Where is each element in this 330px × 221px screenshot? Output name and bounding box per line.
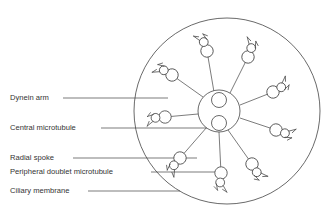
dynein-arm-outer bbox=[222, 186, 227, 192]
leader-lines-group bbox=[63, 98, 221, 191]
dynein-arm-outer bbox=[261, 171, 268, 178]
cilium-cross-section-figure: Dynein armCentral microtubuleRadial spok… bbox=[0, 0, 330, 221]
peripheral-doublet-d2 bbox=[239, 37, 260, 65]
dynein-arm-outer bbox=[280, 76, 287, 83]
label-dynein-arm: Dynein arm bbox=[10, 93, 49, 102]
peripheral-doublet-d5 bbox=[244, 155, 268, 183]
peripheral-doublet-d8 bbox=[146, 110, 172, 126]
peripheral-doublet-d3 bbox=[264, 76, 292, 100]
dynein-arm-outer bbox=[170, 170, 177, 177]
diagram-canvas: Dynein armCentral microtubuleRadial spok… bbox=[0, 0, 330, 221]
central-microtubule-2 bbox=[212, 116, 227, 131]
dynein-arm-outer bbox=[194, 35, 200, 42]
label-radial-spoke: Radial spoke bbox=[10, 153, 54, 162]
peripheral-doublet-d1 bbox=[194, 31, 215, 59]
peripheral-doublet-d6 bbox=[213, 166, 229, 192]
peripheral-doublet-d4 bbox=[268, 121, 296, 142]
dynein-arm-outer bbox=[152, 68, 159, 75]
peripheral-doublet-d9 bbox=[152, 60, 180, 84]
label-peripheral-doublet-microtubule: Peripheral doublet microtubule bbox=[10, 167, 113, 176]
dynein-arm-outer bbox=[245, 37, 251, 44]
a-tubule bbox=[214, 166, 227, 179]
cilium-structure-group bbox=[134, 18, 320, 204]
label-ciliary-membrane: Ciliary membrane bbox=[10, 186, 70, 195]
dynein-arm-outer bbox=[289, 127, 296, 133]
dynein-arm-outer bbox=[147, 121, 153, 126]
label-central-microtubule: Central microtubule bbox=[10, 123, 76, 132]
a-tubule bbox=[158, 110, 171, 123]
label-text-group: Dynein armCentral microtubuleRadial spok… bbox=[10, 93, 113, 195]
central-microtubule-1 bbox=[212, 93, 227, 108]
peripheral-doublet-d7 bbox=[163, 149, 189, 177]
